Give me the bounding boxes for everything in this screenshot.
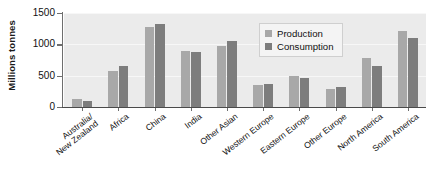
y-tick-label: 0 (49, 102, 55, 112)
x-tick-mark (263, 108, 264, 111)
bar-consumption (408, 38, 418, 107)
bar-production (326, 89, 336, 107)
y-tick-label: 500 (38, 71, 55, 81)
bar-production (217, 46, 227, 107)
legend-item: Consumption (265, 40, 334, 53)
legend-item: Production (265, 27, 334, 40)
x-tick-mark (118, 108, 119, 111)
bar-production (145, 27, 155, 107)
bar-consumption (227, 41, 237, 107)
legend-swatch-icon (265, 43, 272, 50)
x-tick-mark (372, 108, 373, 111)
x-axis-label: India (183, 112, 203, 131)
y-axis-title-text: Millions tonnes (6, 20, 17, 91)
legend-label: Production (277, 28, 323, 39)
y-tick-mark (57, 107, 62, 108)
bar-consumption (300, 78, 310, 107)
x-axis-label: China (144, 112, 167, 133)
x-tick-mark (408, 108, 409, 111)
bar-chart-figure: Millions tonnes 050010001500 ProductionC… (0, 0, 432, 184)
bar-production (398, 31, 408, 107)
bar-production (108, 71, 118, 107)
bar-consumption (191, 52, 201, 107)
plot-area (64, 13, 426, 107)
y-axis-tick-labels: 050010001500 (22, 0, 55, 120)
bar-consumption (155, 24, 165, 107)
bar-consumption (264, 84, 274, 107)
y-tick-mark (57, 13, 62, 14)
y-tick-mark (57, 44, 62, 45)
y-axis-line (62, 12, 63, 108)
x-tick-mark (155, 108, 156, 111)
bar-consumption (372, 66, 382, 107)
bar-production (181, 51, 191, 107)
bar-production (289, 76, 299, 107)
x-tick-mark (299, 108, 300, 111)
legend-swatch-icon (265, 30, 272, 37)
bar-production (72, 99, 82, 107)
x-tick-mark (191, 108, 192, 111)
y-axis-title: Millions tonnes (0, 0, 22, 110)
legend-label: Consumption (277, 41, 334, 52)
bar-production (362, 58, 372, 108)
x-tick-mark (336, 108, 337, 111)
x-tick-mark (82, 108, 83, 111)
x-axis-label: Africa (108, 112, 131, 133)
bar-consumption (119, 66, 129, 107)
x-tick-mark (227, 108, 228, 111)
gridline (64, 13, 426, 14)
y-tick-mark (57, 76, 62, 77)
y-tick-label: 1000 (33, 39, 55, 49)
gridline (64, 44, 426, 45)
chart-legend: ProductionConsumption (259, 23, 343, 57)
bar-production (253, 85, 263, 107)
x-axis-label: Australia/ New Zealand (49, 112, 100, 158)
bar-consumption (336, 87, 346, 107)
y-tick-label: 1500 (33, 8, 55, 18)
